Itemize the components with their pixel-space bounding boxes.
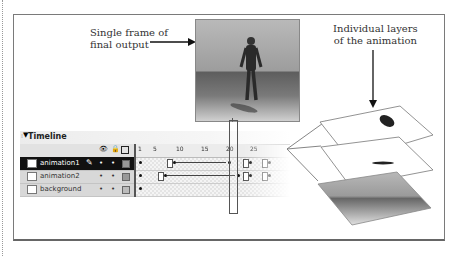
layer-plane-background xyxy=(318,172,431,225)
arrow-to-frame xyxy=(150,38,196,46)
outline-icon[interactable] xyxy=(121,146,129,154)
keyframe-box[interactable] xyxy=(262,159,268,168)
pencil-icon: ✎ xyxy=(86,158,93,167)
lock-dot[interactable]: • xyxy=(111,159,115,167)
keyframe-box[interactable] xyxy=(243,159,249,168)
keyframe[interactable] xyxy=(139,161,142,164)
layer-icon xyxy=(27,172,37,181)
ruler-tick: 1 xyxy=(138,145,142,152)
keyframe-box[interactable] xyxy=(262,172,268,181)
layer-name: animation2 xyxy=(40,172,80,180)
keyframe[interactable] xyxy=(139,187,142,190)
outline-color-box[interactable] xyxy=(122,160,130,168)
eye-icon[interactable]: 👁 xyxy=(99,145,108,153)
frame-row-animation1[interactable] xyxy=(136,157,290,171)
layer-row-animation1[interactable]: animation1 ✎ • • xyxy=(20,157,134,171)
keyframe[interactable] xyxy=(268,161,271,164)
ruler-tick: 10 xyxy=(176,145,184,152)
layer-name: animation1 xyxy=(40,159,80,167)
page-edge xyxy=(2,0,3,256)
keyframe[interactable] xyxy=(139,174,142,177)
layer-row-background[interactable]: background • • xyxy=(20,183,134,197)
ruler-tick: 15 xyxy=(201,145,209,152)
ruler-tick: 5 xyxy=(153,145,157,152)
visibility-dot[interactable]: • xyxy=(99,172,103,180)
caption-line: of the animation xyxy=(333,35,418,47)
tween-line xyxy=(167,175,235,176)
keyframe[interactable] xyxy=(268,174,271,177)
lock-dot[interactable]: • xyxy=(111,185,115,193)
layer-row-animation2[interactable]: animation2 • • xyxy=(20,170,134,184)
frame-ruler[interactable]: 1 5 10 15 20 25 xyxy=(136,144,290,158)
layer-list: 👁 🔒 animation1 ✎ • • animation2 • • xyxy=(20,144,136,197)
lock-dot[interactable]: • xyxy=(111,172,115,180)
caption-layers: Individual layers of the animation xyxy=(333,23,418,47)
visibility-dot[interactable]: • xyxy=(99,159,103,167)
timeline-panel: ⁞ ▼ Timeline 👁 🔒 animation1 ✎ • • animat… xyxy=(20,131,290,197)
frame-grid[interactable]: 1 5 10 15 20 25 xyxy=(136,144,290,197)
layer-icon xyxy=(27,159,37,168)
lock-icon[interactable]: 🔒 xyxy=(111,145,120,153)
visibility-dot[interactable]: • xyxy=(99,185,103,193)
frame-row-background[interactable] xyxy=(136,183,290,197)
keyframe-box[interactable] xyxy=(158,172,164,181)
timeline-title: Timeline xyxy=(28,132,67,141)
outline-color-box[interactable] xyxy=(122,186,130,194)
ruler-tick: 25 xyxy=(250,145,258,152)
frame-row-animation2[interactable] xyxy=(136,170,290,184)
layer-header-icons: 👁 🔒 xyxy=(20,144,134,158)
playhead[interactable] xyxy=(229,120,238,214)
keyframe[interactable] xyxy=(249,174,252,177)
keyframe[interactable] xyxy=(249,161,252,164)
layer-icon xyxy=(27,185,37,194)
layer-stack-diagram xyxy=(280,105,450,240)
keyframe-box[interactable] xyxy=(243,172,249,181)
outline-color-box[interactable] xyxy=(122,173,130,181)
keyframe-box[interactable] xyxy=(167,159,173,168)
timeline-header[interactable]: ⁞ ▼ Timeline xyxy=(20,131,290,145)
layer-name: background xyxy=(40,185,81,193)
arrow-to-layers xyxy=(369,50,377,108)
tween-line xyxy=(176,162,226,163)
caption-line: Individual layers xyxy=(333,23,418,35)
